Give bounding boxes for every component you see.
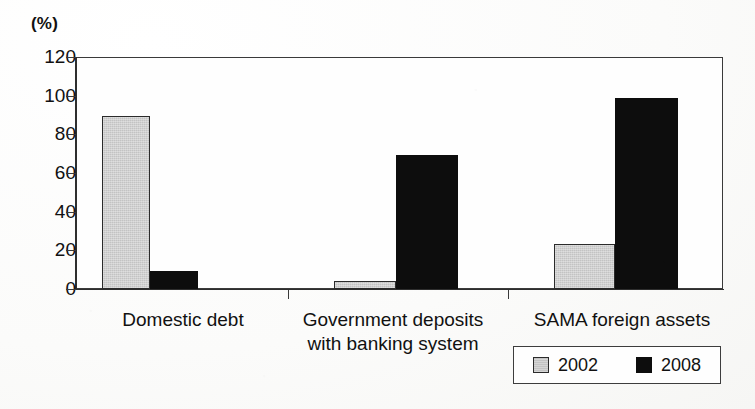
chart-legend: 2002 2008 — [513, 346, 721, 384]
x-tick-mark — [508, 290, 509, 299]
bar-government-deposits-2008 — [396, 155, 458, 289]
bar-chart: (%) 120 100 80 60 40 20 0 Dome — [0, 0, 755, 409]
y-tick-mark — [66, 173, 76, 174]
category-label-line: Domestic debt — [78, 308, 288, 332]
category-label-sama-foreign-assets: SAMA foreign assets — [506, 308, 738, 332]
black-square-swatch-icon — [636, 357, 652, 373]
legend-label-2002: 2002 — [558, 356, 598, 374]
bar-domestic-debt-2002 — [102, 116, 150, 289]
category-label-government-deposits: Government deposits with banking system — [280, 308, 506, 356]
legend-item-2002: 2002 — [533, 356, 598, 374]
y-tick-mark — [66, 289, 76, 290]
y-tick-mark — [66, 134, 76, 135]
gray-square-swatch-icon — [533, 357, 549, 373]
bar-government-deposits-2002 — [334, 281, 396, 289]
y-tick-mark — [66, 250, 76, 251]
y-tick-mark — [66, 96, 76, 97]
legend-item-2008: 2008 — [636, 356, 701, 374]
category-label-line: Government deposits — [280, 308, 506, 332]
y-tick-mark — [66, 212, 76, 213]
category-label-domestic-debt: Domestic debt — [78, 308, 288, 332]
legend-label-2008: 2008 — [661, 356, 701, 374]
bar-domestic-debt-2008 — [150, 271, 198, 290]
bar-sama-foreign-assets-2002 — [554, 244, 615, 289]
category-label-line: with banking system — [280, 332, 506, 356]
y-tick-mark — [66, 57, 76, 58]
x-tick-mark — [288, 290, 289, 299]
y-axis-unit-label: (%) — [31, 14, 58, 34]
bar-sama-foreign-assets-2008 — [615, 98, 678, 290]
category-label-line: SAMA foreign assets — [506, 308, 738, 332]
